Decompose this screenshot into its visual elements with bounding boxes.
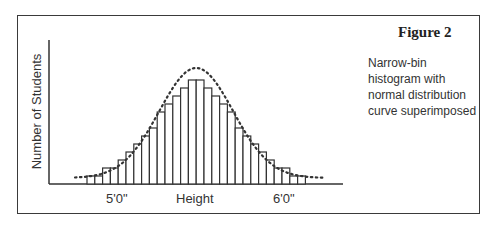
histogram-bar xyxy=(204,88,212,184)
histogram-bar xyxy=(220,104,228,184)
histogram-bar xyxy=(149,128,157,184)
x-tick-6ft: 6'0" xyxy=(273,191,295,206)
histogram-bar xyxy=(212,96,220,184)
histogram-bar xyxy=(298,176,306,184)
figure-title: Figure 2 xyxy=(398,24,451,41)
histogram-bar xyxy=(181,88,189,184)
x-tick-5ft: 5'0" xyxy=(106,191,128,206)
histogram-bar xyxy=(95,176,103,184)
histogram-bar xyxy=(290,176,298,184)
histogram-bar xyxy=(188,80,196,184)
histogram-bar xyxy=(227,112,235,184)
histogram-bar xyxy=(165,104,173,184)
histogram-bar xyxy=(157,112,165,184)
histogram-bar xyxy=(134,144,142,184)
histogram-bar xyxy=(235,128,243,184)
x-axis-label: Height xyxy=(176,191,214,206)
histogram-bars xyxy=(87,80,305,184)
y-axis-label: Number of Students xyxy=(29,42,44,182)
histogram-bar xyxy=(196,80,204,184)
histogram-bar xyxy=(251,144,259,184)
histogram-bar xyxy=(173,96,181,184)
figure-description: Narrow-bin histogram with normal distrib… xyxy=(368,55,478,119)
histogram-bar xyxy=(243,136,251,184)
histogram-bar xyxy=(142,136,150,184)
